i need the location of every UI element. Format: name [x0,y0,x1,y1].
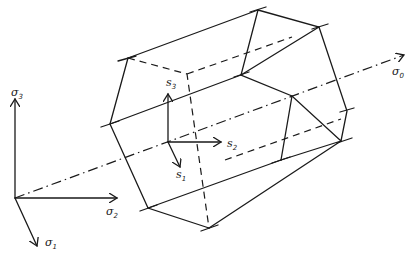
sigma1-axis [15,198,37,246]
label-s2: s2 [227,137,238,152]
s1-axis [168,142,180,167]
deviatoric-axes [168,94,221,167]
hydrostatic-axis [15,55,404,198]
label-s3: s3 [166,76,176,91]
label-sigma2: σ2 [106,205,119,220]
vertex-ticks [101,7,354,231]
label-sigma0: σ0 [392,65,405,80]
principal-axes [15,99,117,246]
prism-edges [110,10,341,228]
label-sigma3: σ3 [11,86,23,101]
label-sigma1: σ1 [45,236,57,251]
yield-surface-diagram: σ3 σ2 σ1 σ0 s3 s2 s1 [0,0,414,260]
prism-front-face [110,58,209,228]
prism-back-face [241,10,347,141]
label-s1: s1 [176,168,186,183]
